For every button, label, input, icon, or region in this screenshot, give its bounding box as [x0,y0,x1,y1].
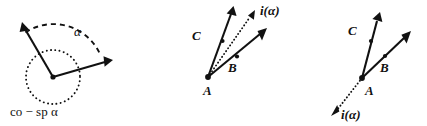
point-A-dot [205,74,211,80]
panel1-angle-label: α [74,24,82,39]
point-B-dot [383,54,387,58]
figure-container: α co − sp α C B A i(α) [0,0,427,126]
panel2-label-i-alpha: i(α) [260,3,279,18]
panel1-caption: co − sp α [10,104,58,119]
panel2-label-B: B [227,60,237,75]
ray-C-arrowhead [227,6,237,16]
panel1-vertex-dot [50,74,55,79]
ray-i-alpha-arrowhead [248,10,255,20]
panel-angle-alpha-with-cospan: α co − sp α [10,22,113,119]
panel2-label-A: A [202,83,212,98]
point-A-dot [359,75,365,81]
panel3-label-B: B [379,60,389,75]
panel3-label-A: A [364,83,374,98]
ray-i-alpha [337,78,362,110]
ray-right-arrowhead [104,56,114,66]
ray-C-arrowhead [372,12,382,22]
ray-right [53,62,105,77]
point-C-dot [369,39,373,43]
panel3-label-C: C [348,23,357,38]
point-C-dot [220,39,224,43]
ray-B-arrowhead [401,31,411,44]
panel-rays-ABC-i-alpha-inside: C B A i(α) [192,3,279,98]
panel2-label-C: C [192,28,201,43]
panel-rays-ABC-i-alpha-opposite: C B A i(α) [331,12,411,122]
ray-upper-left [25,29,53,77]
ray-i-alpha-arrowhead [331,105,339,116]
geometry-figure: α co − sp α C B A i(α) [0,0,427,126]
panel3-label-i-alpha: i(α) [341,107,360,122]
point-B-dot [235,54,239,58]
